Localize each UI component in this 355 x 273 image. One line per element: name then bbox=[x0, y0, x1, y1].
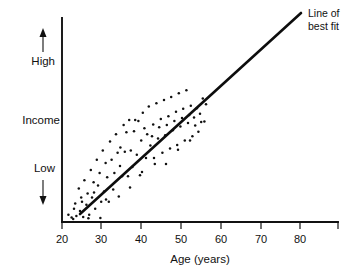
data-point bbox=[200, 121, 203, 124]
annotation-line-2: best fit bbox=[308, 20, 339, 32]
data-point bbox=[170, 96, 173, 99]
data-point bbox=[80, 196, 83, 199]
data-point bbox=[119, 165, 122, 168]
data-point bbox=[109, 140, 112, 143]
data-point bbox=[205, 103, 208, 106]
data-point bbox=[189, 139, 192, 142]
x-axis-ticks bbox=[62, 222, 338, 229]
data-point bbox=[154, 163, 157, 166]
data-point bbox=[108, 200, 111, 203]
data-point bbox=[203, 120, 206, 123]
data-point bbox=[197, 130, 200, 133]
data-point bbox=[82, 216, 85, 219]
data-point bbox=[100, 200, 103, 203]
data-point bbox=[163, 99, 166, 102]
y-axis-qualitative-labels: High Income Low bbox=[22, 28, 60, 205]
up-arrow-icon bbox=[40, 28, 47, 52]
x-tick-label: 60 bbox=[215, 233, 227, 245]
data-point bbox=[139, 174, 142, 177]
data-point bbox=[106, 176, 109, 179]
data-point bbox=[176, 144, 179, 147]
data-point bbox=[175, 111, 178, 114]
data-point bbox=[122, 124, 125, 127]
x-axis-title: Age (years) bbox=[170, 253, 230, 265]
data-point bbox=[74, 202, 77, 205]
data-point bbox=[140, 139, 143, 142]
data-point bbox=[87, 217, 90, 220]
y-axis-income-label: Income bbox=[22, 114, 60, 126]
data-point bbox=[191, 135, 194, 138]
scatter-points-group bbox=[67, 89, 207, 220]
y-axis-low-label: Low bbox=[34, 162, 56, 174]
data-point bbox=[102, 149, 105, 152]
data-point bbox=[72, 218, 75, 221]
annotation-line-1: Line of bbox=[308, 7, 340, 19]
data-point bbox=[133, 130, 136, 133]
data-point bbox=[125, 131, 128, 134]
data-point bbox=[129, 186, 132, 189]
data-point bbox=[182, 107, 185, 110]
data-point bbox=[119, 146, 122, 149]
data-point bbox=[88, 214, 91, 217]
x-tick-label: 70 bbox=[255, 233, 267, 245]
scatter-plot-figure: 20 30 40 50 60 70 80 Age (years) High In… bbox=[0, 0, 355, 273]
data-point bbox=[78, 187, 81, 190]
y-axis-high-label: High bbox=[31, 55, 55, 67]
data-point bbox=[96, 159, 99, 162]
data-point bbox=[73, 208, 76, 211]
data-point bbox=[166, 124, 169, 127]
x-tick-label: 30 bbox=[95, 233, 107, 245]
data-point bbox=[155, 102, 158, 105]
data-point bbox=[153, 157, 156, 160]
data-point bbox=[118, 195, 121, 198]
data-point bbox=[112, 188, 115, 191]
data-point bbox=[165, 163, 168, 166]
data-point bbox=[99, 217, 102, 220]
data-point bbox=[187, 122, 190, 125]
data-point bbox=[202, 97, 205, 100]
x-tick-label: 20 bbox=[56, 233, 68, 245]
data-point bbox=[179, 125, 182, 128]
data-point bbox=[128, 119, 131, 122]
data-point bbox=[173, 120, 176, 123]
data-point bbox=[97, 184, 100, 187]
data-point bbox=[137, 120, 140, 123]
data-point bbox=[169, 147, 172, 150]
data-point bbox=[67, 214, 70, 217]
data-point bbox=[157, 137, 160, 140]
data-point bbox=[98, 172, 101, 175]
data-point bbox=[113, 172, 116, 175]
data-point bbox=[85, 203, 88, 206]
data-point bbox=[142, 112, 145, 115]
data-point bbox=[148, 105, 151, 108]
data-point bbox=[190, 104, 193, 107]
data-point bbox=[149, 144, 152, 147]
data-point bbox=[90, 169, 93, 172]
data-point bbox=[91, 196, 94, 199]
plot-canvas: 20 30 40 50 60 70 80 Age (years) High In… bbox=[0, 0, 355, 273]
data-point bbox=[199, 113, 202, 116]
data-point bbox=[134, 119, 137, 122]
data-point bbox=[75, 215, 78, 218]
data-point bbox=[141, 171, 144, 174]
data-point bbox=[116, 151, 119, 154]
data-point bbox=[193, 116, 196, 119]
data-point bbox=[104, 162, 107, 165]
data-point bbox=[184, 139, 187, 142]
data-point bbox=[105, 198, 108, 201]
x-tick-label: 50 bbox=[175, 233, 187, 245]
data-point bbox=[94, 208, 97, 211]
x-tick-labels: 20 30 40 50 60 70 80 bbox=[56, 233, 306, 245]
data-point bbox=[151, 135, 154, 138]
data-point bbox=[110, 159, 113, 162]
data-point bbox=[160, 118, 163, 121]
line-of-best-fit-annotation: Line of best fit bbox=[308, 7, 340, 32]
data-point bbox=[83, 179, 86, 182]
data-point bbox=[115, 133, 118, 136]
data-point bbox=[194, 124, 197, 127]
data-point bbox=[127, 175, 130, 178]
data-point bbox=[130, 149, 133, 152]
data-point bbox=[158, 126, 161, 129]
data-point bbox=[81, 200, 84, 203]
data-point bbox=[185, 89, 188, 92]
